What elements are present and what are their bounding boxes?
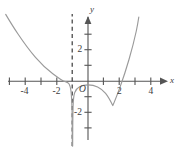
origin-label: O: [79, 85, 86, 95]
y-tick-label-2: 2: [78, 45, 83, 55]
x-tick-label-neg4: -4: [21, 87, 29, 97]
x-axis-label: x: [170, 76, 174, 85]
y-axis-arrow-icon: [85, 16, 92, 24]
y-tick-label-neg2: -2: [74, 108, 82, 118]
graph-figure: -4 -2 2 4 2 -2 O x y: [0, 0, 179, 147]
x-tick-label-2: 2: [117, 87, 122, 97]
y-axis-label: y: [90, 5, 94, 14]
plot-canvas: [0, 0, 179, 147]
curve-left-branch: [6, 14, 73, 146]
x-tick-label-neg2: -2: [53, 87, 61, 97]
x-axis-arrow-icon: [160, 78, 168, 85]
x-tick-label-4: 4: [149, 87, 154, 97]
